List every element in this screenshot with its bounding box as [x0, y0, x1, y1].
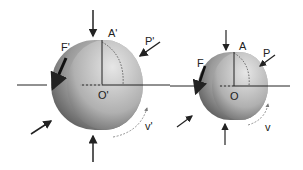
label-a-prime: A' — [108, 27, 117, 39]
label-f-prime: F' — [61, 41, 70, 53]
label-p: P — [263, 47, 270, 59]
pressure-arrow-lower — [31, 121, 51, 134]
label-f: F — [197, 57, 204, 69]
label-v-prime: v' — [145, 120, 153, 132]
right-sphere: A F P O v — [170, 30, 290, 145]
diagram: A' F' P' O' v' A F P O v — [0, 0, 303, 170]
label-v: v — [265, 121, 271, 133]
left-sphere: A' F' P' O' v' — [17, 10, 170, 162]
label-p-prime: P' — [145, 35, 154, 47]
label-o-prime: O' — [98, 89, 109, 101]
label-a: A — [239, 40, 247, 52]
label-o: O — [230, 90, 239, 102]
